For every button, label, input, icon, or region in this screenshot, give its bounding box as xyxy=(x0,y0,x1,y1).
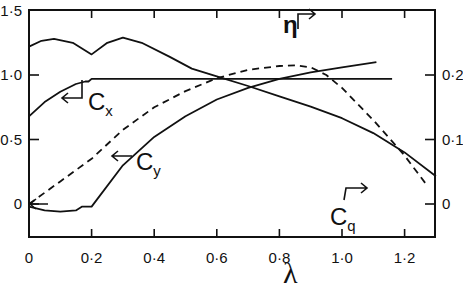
y-tick-label: 0·5 xyxy=(0,131,22,148)
label-y: Cy xyxy=(136,148,161,179)
y2-tick-label: 0 xyxy=(442,195,450,212)
chart: 00·20·40·60·81·01·200·51·01·500·10·2 CxC… xyxy=(0,0,463,283)
x-tick-label: 1·0 xyxy=(331,249,353,266)
curve-eta xyxy=(29,65,427,204)
axis-ticks xyxy=(29,10,435,237)
x-tick-label: 1·2 xyxy=(394,249,416,266)
cq-arrow xyxy=(344,183,367,200)
x-axis-label: λ xyxy=(283,256,298,283)
label-eta: η xyxy=(283,11,298,38)
curve-x xyxy=(29,79,392,116)
curve-y xyxy=(29,62,376,212)
x-tick-label: 0·6 xyxy=(206,249,228,266)
y-tick-label: 0 xyxy=(14,195,22,212)
curve-labels: CxCyCqη xyxy=(88,11,356,234)
y2-tick-label: 0·1 xyxy=(442,131,463,148)
axis-tick-labels: 00·20·40·60·81·01·200·51·01·500·10·2 xyxy=(0,2,463,267)
plot-frame xyxy=(29,10,435,237)
x-tick-label: 0·4 xyxy=(143,249,165,266)
eta-arrow xyxy=(298,9,315,29)
label-q: Cq xyxy=(330,203,356,234)
curves xyxy=(29,38,436,212)
y-tick-label: 1·5 xyxy=(0,2,22,19)
x-tick-label: 0 xyxy=(25,249,33,266)
y2-tick-label: 0·2 xyxy=(442,66,463,83)
label-x: Cx xyxy=(88,88,113,119)
y-tick-label: 1·0 xyxy=(0,66,22,83)
x-tick-label: 0·2 xyxy=(81,249,103,266)
